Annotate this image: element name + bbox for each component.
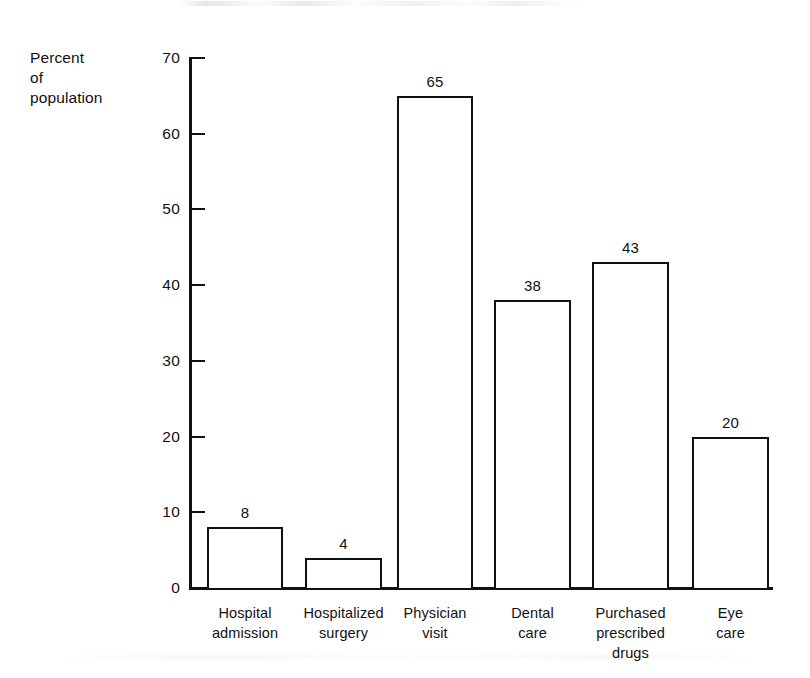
y-axis-tick: [192, 284, 205, 286]
bar-value-label: 8: [207, 505, 283, 520]
x-axis-category-label: Purchased prescribed drugs: [574, 603, 687, 663]
bar-chart: Percent of population 010203040506070 84…: [0, 0, 810, 678]
y-axis-tick: [192, 511, 205, 513]
y-axis-tick-label: 20: [136, 429, 180, 445]
y-axis-tick-label-text: 70: [136, 50, 180, 66]
bar: [207, 527, 283, 590]
y-axis-tick: [192, 57, 205, 59]
bar-value-label: 43: [592, 240, 669, 255]
bar: [592, 262, 669, 590]
y-axis-tick: [192, 133, 205, 135]
y-axis-tick-label: 60: [136, 126, 180, 142]
y-axis-tick-label-text: 40: [136, 277, 180, 293]
y-axis-tick-label-text: 10: [136, 504, 180, 520]
bar-value-label: 20: [692, 415, 769, 430]
x-axis-category-label: Dental care: [476, 603, 589, 643]
y-axis-tick-label-text: 60: [136, 126, 180, 142]
x-axis-category-label: Hospital admission: [189, 603, 301, 643]
y-axis-line: [189, 57, 192, 590]
x-axis-category-label: Physician visit: [379, 603, 491, 643]
bar: [305, 558, 382, 590]
y-axis-tick: [192, 208, 205, 210]
y-axis-tick-label: 50: [136, 201, 180, 217]
y-axis-tick-label-text: 30: [136, 353, 180, 369]
y-axis-tick: [192, 360, 205, 362]
bar-value-label: 38: [494, 278, 571, 293]
y-axis-tick-label-text: 50: [136, 201, 180, 217]
bar-value-label: 65: [397, 74, 473, 89]
y-axis-tick: [192, 436, 205, 438]
y-axis-tick-label: 70: [136, 50, 180, 66]
bar: [692, 437, 769, 590]
y-axis-tick-label-text: 20: [136, 429, 180, 445]
y-axis-tick-label-text: 0: [136, 580, 180, 596]
bar: [397, 96, 473, 590]
y-axis-tick-label: 40: [136, 277, 180, 293]
bar-value-label: 4: [305, 536, 382, 551]
bar: [494, 300, 571, 590]
y-axis-tick-label: 10: [136, 504, 180, 520]
y-axis-tick: [192, 587, 205, 589]
y-axis-tick-label: 30: [136, 353, 180, 369]
y-axis-tick-label: 0: [136, 580, 180, 596]
x-axis-category-label: Eye care: [674, 603, 787, 643]
plot-area: 010203040506070 8465384320 Hospital admi…: [0, 0, 810, 678]
